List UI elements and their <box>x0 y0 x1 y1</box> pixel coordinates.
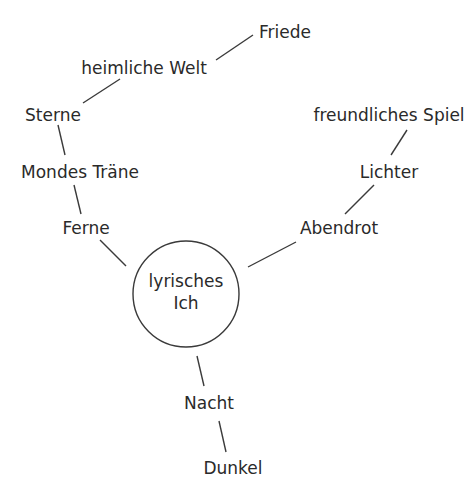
center-node-label: lyrisches Ich <box>149 270 224 314</box>
node-friede: Friede <box>259 22 311 42</box>
center-label-line1: lyrisches <box>149 270 224 292</box>
node-nacht: Nacht <box>184 393 234 413</box>
edge-ferne-center <box>100 240 126 266</box>
node-lichter: Lichter <box>360 162 418 182</box>
mind-map-diagram <box>0 0 473 484</box>
node-abendrot: Abendrot <box>300 218 378 238</box>
node-mondes-traene: Mondes Träne <box>21 162 139 182</box>
node-dunkel: Dunkel <box>203 458 262 478</box>
connector-lines <box>58 35 407 452</box>
node-freundliches-spiel: freundliches Spiel <box>313 105 464 125</box>
edge-sterne-heimliche-welt <box>83 79 120 103</box>
edge-nacht-dunkel <box>219 421 226 452</box>
center-label-line2: Ich <box>149 292 224 314</box>
edge-lichter-abendrot <box>345 185 374 214</box>
edge-heimliche-welt-friede <box>216 35 253 60</box>
edge-mondes-traene-ferne <box>74 185 81 214</box>
edge-center-nacht <box>197 356 204 386</box>
node-heimliche-welt: heimliche Welt <box>81 58 207 78</box>
node-sterne: Sterne <box>25 105 81 125</box>
edge-abendrot-center <box>248 242 296 267</box>
edge-sterne-mondes-traene <box>58 125 65 155</box>
edge-freundliches-spiel-lichter <box>391 130 407 155</box>
node-ferne: Ferne <box>62 218 109 238</box>
